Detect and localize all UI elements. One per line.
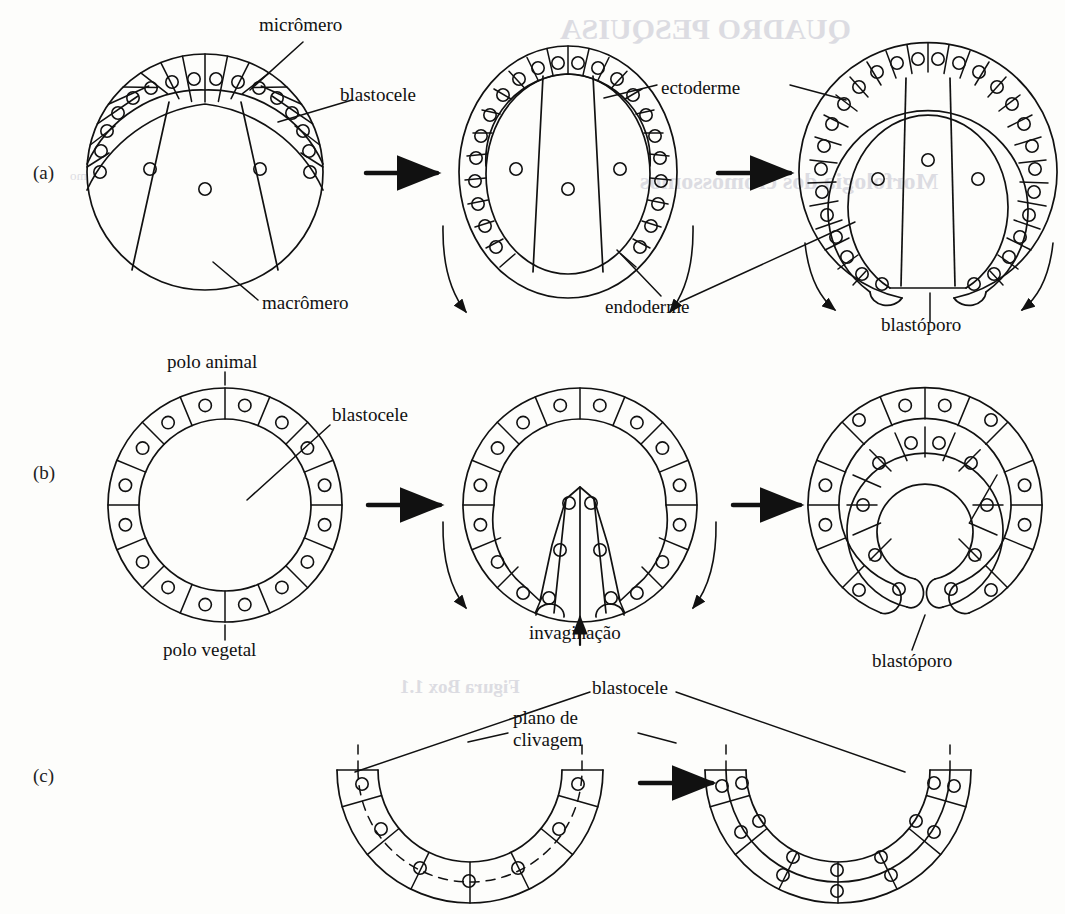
leader-blastoporo-b	[912, 615, 925, 650]
label-blastocele-b: blastocele	[332, 404, 408, 425]
flow-arrow-a3-left	[805, 243, 835, 310]
leader-blastocele-c-right	[676, 692, 905, 772]
label-invaginacao: invaginação	[529, 622, 621, 643]
panel-letter-b: (b)	[33, 462, 55, 484]
label-blastoporo-b: blastóporo	[872, 650, 952, 671]
leader-endoderme-a2	[617, 250, 661, 296]
embryo-b-stage2	[463, 388, 697, 622]
label-plano-clivagem-line1: plano de	[513, 707, 578, 728]
label-polo-animal: polo animal	[167, 351, 257, 372]
figure-canvas: QUADRO PESQUISAMorfologia dos cromossomo…	[0, 0, 1065, 914]
label-ectoderme: ectoderme	[661, 77, 740, 98]
embryo-a-stage2	[459, 46, 677, 298]
label-macromero: macrômero	[262, 292, 349, 313]
embryo-b-stage3	[808, 388, 1042, 614]
label-plano-clivagem-line2: clivagem	[513, 729, 583, 750]
leader-blastocele-b	[247, 425, 330, 500]
label-blastocele-a: blastocele	[340, 84, 416, 105]
embryo-c-stage1	[337, 742, 603, 903]
panel-letter-a: (a)	[33, 162, 54, 184]
leader-plano-clivagem-left	[468, 733, 508, 742]
label-blastocele-c: blastocele	[592, 677, 668, 698]
label-endoderme: endoderme	[605, 296, 689, 317]
leader-endoderme-a3	[680, 222, 855, 302]
flow-arrow-a2-left	[443, 226, 466, 312]
diagram-artwork	[0, 0, 1065, 914]
label-micromero: micrômero	[259, 14, 342, 35]
flow-arrow-b2-left	[443, 522, 466, 608]
embryo-c-stage2	[705, 742, 971, 903]
leader-plano-clivagem-right	[638, 733, 676, 743]
label-polo-vegetal: polo vegetal	[163, 639, 256, 660]
flow-arrow-a3-right	[1022, 243, 1053, 310]
leader-ectoderme-right	[790, 85, 846, 100]
panel-letter-c: (c)	[33, 765, 54, 787]
embryo-a-stage1	[87, 54, 323, 290]
embryo-a-stage3	[799, 43, 1057, 306]
flow-arrow-b2-right	[693, 522, 716, 608]
label-blastoporo-a: blastóporo	[881, 314, 961, 335]
embryo-b-stage1	[108, 388, 342, 622]
